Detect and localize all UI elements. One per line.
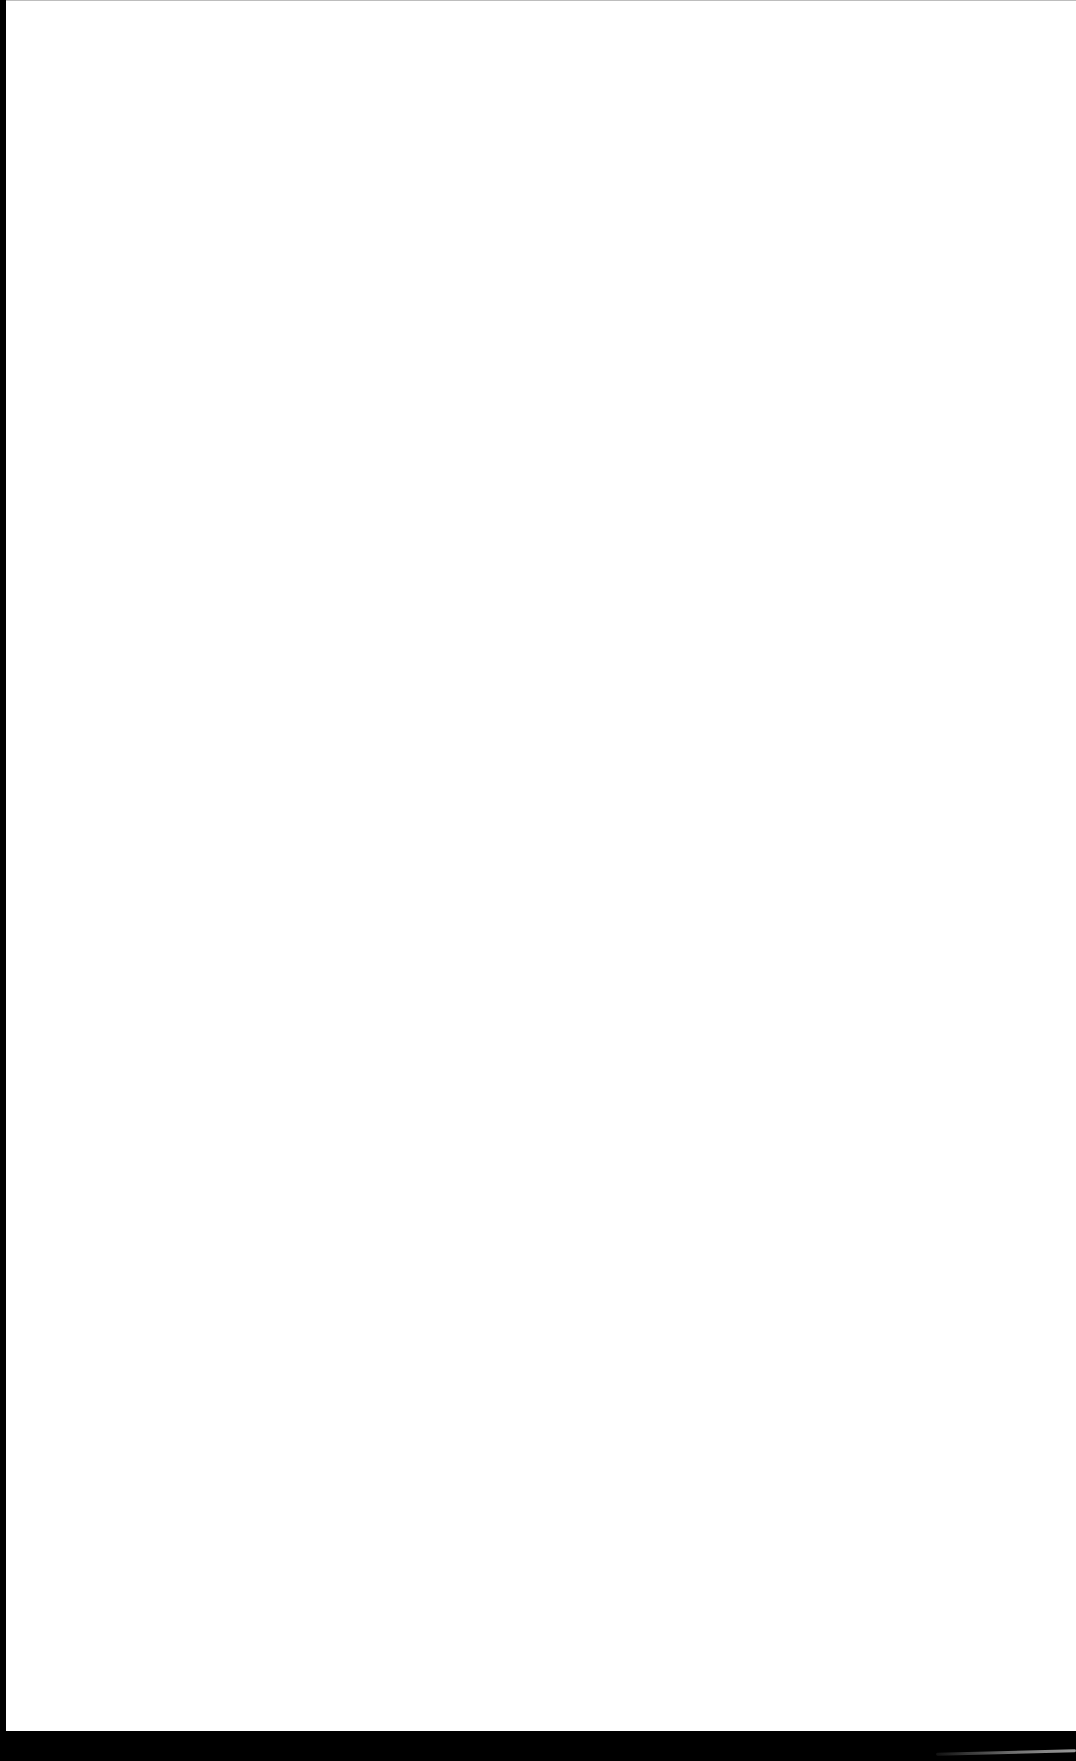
bottom-frame-bar xyxy=(0,1731,1076,1761)
blank-page xyxy=(6,0,1076,1732)
